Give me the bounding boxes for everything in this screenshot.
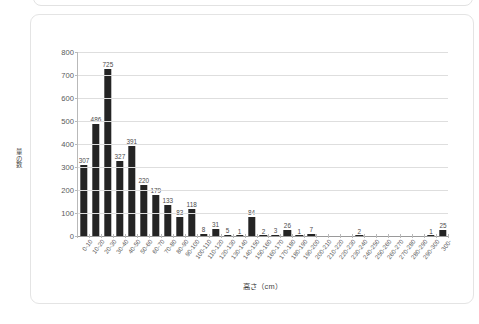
x-tick-mark [316,234,317,238]
x-tick-mark [137,234,138,238]
gridline [78,190,448,191]
x-tick-mark [161,234,162,238]
x-tick-mark [101,234,102,238]
x-axis-tick-labels: 0-1010-2020-3030-4040-5050-6060-7070-808… [77,238,448,278]
y-tick-mark [75,52,78,53]
x-tick-mark [268,234,269,238]
bar-value-label: 5 [226,227,230,234]
gridline [78,98,448,99]
card-above-partial [33,0,473,6]
y-tick-mark [75,75,78,76]
x-tick-mark [233,234,234,238]
x-tick-mark [400,234,401,238]
y-tick-mark [75,121,78,122]
bar-value-label: 7 [310,226,314,233]
bar[interactable] [92,124,99,236]
bar[interactable] [164,205,171,236]
x-tick-mark [149,234,150,238]
y-tick-label: 800 [61,48,74,57]
bar-value-label: 25 [439,222,446,229]
x-tick-mark [173,234,174,238]
bar-value-label: 486 [91,116,102,123]
y-tick-label: 300 [61,163,74,172]
y-tick-label: 200 [61,186,74,195]
bar-value-label: 26 [284,222,291,229]
x-tick-mark [257,234,258,238]
bar-value-label: 307 [79,157,90,164]
x-tick-mark [304,234,305,238]
gridline [78,167,448,168]
x-tick-mark [448,234,449,238]
bar-value-label: 118 [187,201,197,208]
x-tick-mark [412,234,413,238]
x-tick-mark [209,234,210,238]
bar[interactable] [80,165,87,236]
x-tick-mark [77,234,78,238]
y-tick-label: 500 [61,117,74,126]
gridline [78,213,448,214]
bar-value-label: 1 [429,228,433,235]
y-tick-mark [75,190,78,191]
screenshot-root: graph 6 サイズ別 307486725327391220179133831… [0,0,479,324]
bar-value-label: 3 [274,227,278,234]
x-tick-mark [245,234,246,238]
y-tick-mark [75,213,78,214]
bar[interactable] [248,217,255,236]
x-tick-mark [89,234,90,238]
bar-value-label: 2 [262,228,266,235]
y-axis-title: 量の数 [0,149,39,169]
bar[interactable] [104,69,111,236]
y-tick-mark [75,144,78,145]
y-tick-mark [75,167,78,168]
gridline [78,236,448,237]
x-axis-title: 高さ（cm） [77,280,448,291]
gridline [78,75,448,76]
bar-chart: 3074867253273912201791338311883151842326… [30,14,474,304]
x-tick-mark [280,234,281,238]
y-tick-label: 700 [61,71,74,80]
gridline [78,144,448,145]
bar-value-label: 133 [162,197,173,204]
x-tick-mark [352,234,353,238]
x-tick-mark [376,234,377,238]
bar[interactable] [116,161,123,236]
x-tick-mark [340,234,341,238]
y-tick-label: 100 [61,209,74,218]
x-tick-mark [113,234,114,238]
gridline [78,52,448,53]
bar[interactable] [152,195,159,236]
bar-value-label: 327 [115,153,126,160]
bar[interactable] [176,217,183,236]
y-tick-label: 600 [61,94,74,103]
bar-value-label: 1 [298,228,302,235]
y-tick-mark [75,98,78,99]
bar-value-label: 8 [202,226,206,233]
x-tick-mark [388,234,389,238]
x-tick-mark [221,234,222,238]
x-tick-mark [185,234,186,238]
bar[interactable] [128,146,135,236]
x-tick-mark [197,234,198,238]
bar-value-label: 220 [138,177,149,184]
x-tick-mark [125,234,126,238]
plot-area: 3074867253273912201791338311883151842326… [77,52,448,236]
bar[interactable] [140,185,147,236]
y-axis-title-char: 数 [0,162,39,169]
x-tick-mark [364,234,365,238]
x-tick-label: 300- [439,238,452,252]
x-tick-mark [292,234,293,238]
x-tick-mark [436,234,437,238]
bar-value-label: 1 [238,228,242,235]
y-tick-label: 400 [61,140,74,149]
x-tick-mark [328,234,329,238]
bar-value-label: 31 [212,221,219,228]
gridline [78,121,448,122]
bar-value-label: 2 [357,228,361,235]
x-tick-mark [424,234,425,238]
bar-value-label: 725 [103,61,114,68]
bar[interactable] [212,229,219,236]
y-tick-label: 0 [70,232,74,241]
